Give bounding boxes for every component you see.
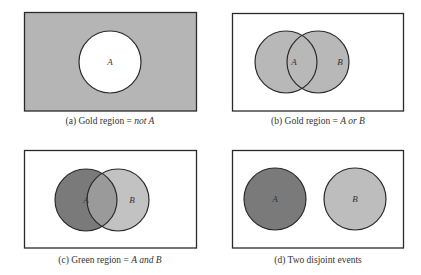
caption-panel-b: (b) Gold region = A or B bbox=[232, 116, 404, 126]
label-a-in-panel-a: A bbox=[106, 57, 113, 67]
caption-c-emph: A and B bbox=[131, 255, 161, 265]
panel-a: A bbox=[25, 13, 197, 112]
panel-d: A B bbox=[233, 151, 404, 249]
panel-b: A B bbox=[233, 14, 404, 112]
label-b-in-panel-b: B bbox=[337, 57, 343, 67]
caption-c-prefix: (c) Green region = bbox=[58, 255, 131, 265]
caption-panel-a: (a) Gold region = not A bbox=[24, 116, 196, 126]
caption-panel-d: (d) Two disjoint events bbox=[232, 255, 404, 265]
label-b-in-panel-d: B bbox=[352, 194, 358, 204]
caption-panel-c: (c) Green region = A and B bbox=[24, 255, 196, 265]
caption-d-text: (d) Two disjoint events bbox=[274, 255, 362, 265]
label-a-in-panel-b: A bbox=[290, 57, 297, 67]
caption-a-prefix: (a) Gold region = bbox=[66, 116, 135, 126]
caption-b-prefix: (b) Gold region = bbox=[271, 116, 340, 126]
label-a-in-panel-d: A bbox=[271, 194, 278, 204]
caption-b-emph: A or B bbox=[340, 116, 365, 126]
panel-c: A B bbox=[25, 151, 197, 249]
caption-a-emph: not A bbox=[134, 116, 154, 126]
venn-diagram-figure: A A B A B A B bbox=[0, 0, 421, 275]
label-a-in-panel-c: A bbox=[82, 195, 89, 205]
label-b-in-panel-c: B bbox=[129, 195, 135, 205]
